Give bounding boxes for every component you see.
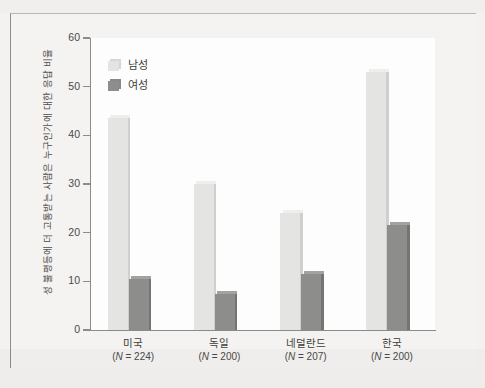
- y-axis-tick-label: 10: [54, 275, 80, 286]
- x-axis-sample-size-label: (N = 224): [90, 350, 176, 364]
- y-axis-tick-label: 30: [54, 178, 80, 189]
- y-axis-tick-mark: [83, 183, 90, 184]
- y-axis-tick-label: 40: [54, 129, 80, 140]
- x-axis-sample-size-label: (N = 200): [349, 350, 435, 364]
- x-axis-group-3: 한국(N = 200): [349, 336, 435, 364]
- bar-side-face: [149, 276, 152, 330]
- x-axis-sample-size-label: (N = 207): [263, 350, 349, 364]
- bar-side-face: [235, 291, 238, 331]
- bar-front-face: [215, 294, 235, 331]
- bar-male-3: [366, 72, 386, 330]
- y-axis-tick-label: 20: [54, 227, 80, 238]
- y-axis-tick-label: 0: [54, 324, 80, 335]
- y-axis-tick-mark: [83, 232, 90, 233]
- bar-female-3: [387, 225, 407, 330]
- y-axis-tick-label: 50: [54, 81, 80, 92]
- x-axis-country-label: 한국: [349, 336, 435, 350]
- y-axis-tick-mark: [83, 37, 90, 38]
- x-axis-group-2: 네덜란드(N = 207): [263, 336, 349, 364]
- bar-front-face: [387, 225, 407, 330]
- bar-chart-figure: 성 불평등에 더 고통받는 사람은 누구인가에 대한 응답 비율 6050403…: [10, 13, 476, 349]
- y-axis-title: 성 불평등에 더 고통받는 사람은 누구인가에 대한 응답 비율: [40, 65, 54, 295]
- y-axis-line: [90, 38, 91, 331]
- x-axis-country-label: 네덜란드: [263, 336, 349, 350]
- bar-side-face: [407, 222, 410, 330]
- legend-item-male: 남성: [108, 58, 148, 72]
- bar-male-2: [280, 213, 300, 330]
- x-axis-country-label: 미국: [90, 336, 176, 350]
- legend-swatch-female-icon: [108, 79, 121, 91]
- x-axis-country-label: 독일: [176, 336, 262, 350]
- x-axis-sample-size-label: (N = 200): [176, 350, 262, 364]
- y-axis-tick-mark: [83, 135, 90, 136]
- x-axis-group-0: 미국(N = 224): [90, 336, 176, 364]
- bar-male-0: [108, 118, 128, 330]
- y-axis-tick-mark: [83, 329, 90, 330]
- legend-label-male: 남성: [128, 60, 148, 71]
- legend-label-female: 여성: [128, 80, 148, 91]
- legend-swatch-male-icon: [108, 59, 121, 71]
- y-axis-tick-mark: [83, 281, 90, 282]
- bar-side-face: [321, 271, 324, 330]
- bar-female-2: [301, 274, 321, 330]
- y-axis-tick-label: 60: [54, 32, 80, 43]
- bar-front-face: [366, 72, 386, 330]
- bar-female-1: [215, 294, 235, 331]
- legend-item-female: 여성: [108, 78, 148, 92]
- bar-female-0: [129, 279, 149, 330]
- scanned-page: 성 불평등에 더 고통받는 사람은 누구인가에 대한 응답 비율 6050403…: [0, 0, 485, 388]
- bar-front-face: [108, 118, 128, 330]
- x-axis-group-1: 독일(N = 200): [176, 336, 262, 364]
- bar-male-1: [194, 184, 214, 330]
- y-axis-tick-mark: [83, 86, 90, 87]
- bar-front-face: [194, 184, 214, 330]
- bar-front-face: [129, 279, 149, 330]
- x-axis-line: [90, 330, 436, 331]
- bar-front-face: [301, 274, 321, 330]
- chart-legend: 남성 여성: [108, 58, 148, 92]
- bar-front-face: [280, 213, 300, 330]
